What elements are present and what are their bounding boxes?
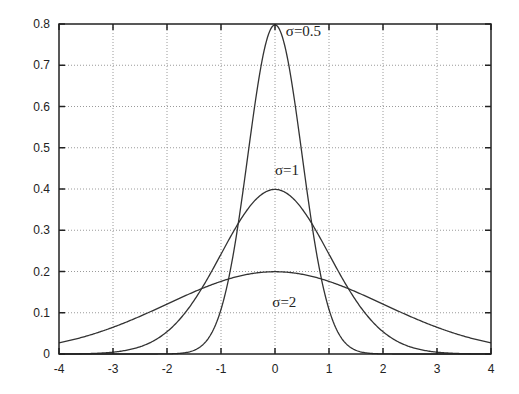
x-tick-label: 0	[272, 362, 279, 376]
y-tick-label: 0.2	[33, 265, 50, 279]
y-tick-label: 0.8	[33, 17, 50, 31]
gaussian-chart: -4-3-2-10123400.10.20.30.40.50.60.70.8 σ…	[0, 0, 519, 394]
x-tick-label: 4	[488, 362, 495, 376]
y-tick-label: 0.4	[33, 182, 50, 196]
x-tick-label: -3	[108, 362, 119, 376]
y-tick-label: 0.1	[33, 306, 50, 320]
y-tick-label: 0.6	[33, 100, 50, 114]
x-tick-label: 3	[434, 362, 441, 376]
x-tick-label: 1	[326, 362, 333, 376]
curve-labels: σ=0.5σ=1σ=2	[272, 23, 321, 309]
x-tick-label: -1	[216, 362, 227, 376]
y-tick-label: 0.3	[33, 223, 50, 237]
y-tick-label: 0.5	[33, 141, 50, 155]
x-tick-label: -4	[54, 362, 65, 376]
y-tick-label: 0.7	[33, 58, 50, 72]
curve-label: σ=0.5	[286, 23, 321, 39]
curve-label: σ=2	[272, 294, 296, 310]
y-tick-label: 0	[43, 347, 50, 361]
curve-label: σ=1	[275, 162, 299, 178]
x-tick-label: 2	[380, 362, 387, 376]
x-tick-label: -2	[162, 362, 173, 376]
